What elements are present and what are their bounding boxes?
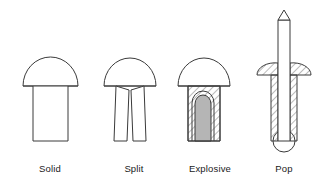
pop-rivet-icon [245,0,323,160]
rivet-item-explosive: Explosive [165,0,255,187]
rivet-item-split: Split [95,0,173,187]
rivet-label-split: Split [95,163,173,174]
rivet-item-solid: Solid [0,0,100,187]
rivet-label-solid: Solid [0,163,100,174]
rivet-label-explosive: Explosive [165,163,255,174]
explosive-rivet-icon [165,0,255,160]
solid-rivet-icon [0,0,100,160]
rivet-types-figure: Solid Split [0,0,323,187]
rivet-label-pop: Pop [245,163,323,174]
rivet-item-pop: Pop [245,0,323,187]
split-rivet-icon [95,0,173,160]
